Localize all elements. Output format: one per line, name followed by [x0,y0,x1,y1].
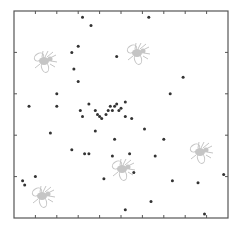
data-point [222,173,225,176]
data-point [105,113,108,116]
data-point [81,16,84,19]
data-point [132,171,135,174]
data-point [111,154,114,157]
data-point [154,154,157,157]
data-point [21,179,24,182]
data-point [70,51,73,54]
data-point [94,130,97,133]
data-point [111,109,114,112]
plot-border [14,11,228,218]
bee-icon [111,159,135,181]
data-point [120,107,123,110]
data-point [79,109,82,112]
data-point [34,175,37,178]
data-point [102,177,105,180]
plot-frame [14,11,228,218]
bee-decorations [31,43,213,208]
data-point [55,92,58,95]
scatter-plot [0,0,241,235]
data-point [130,117,133,120]
data-point [150,200,153,203]
data-point [203,212,206,215]
data-point [87,152,90,155]
data-point [83,152,86,155]
data-point [87,103,90,106]
data-point [77,80,80,83]
data-point [147,16,150,19]
data-point [124,101,127,104]
data-point [70,148,73,151]
data-point [171,179,174,182]
data-point [162,138,165,141]
data-point [100,117,103,120]
data-point [77,45,80,48]
data-point [109,105,112,108]
bee-icon [33,51,57,73]
data-point [81,115,84,118]
data-point [113,138,116,141]
data-point [124,208,127,211]
bee-icon [126,43,150,65]
data-point [115,103,118,106]
data-point [55,105,58,108]
data-point [115,55,118,58]
axis-ticks [14,11,228,218]
data-point [49,132,52,135]
data-point [169,92,172,95]
bee-icon [189,142,213,164]
data-point [72,68,75,71]
data-point [124,115,127,118]
data-point [94,109,97,112]
data-point [23,183,26,186]
data-point [128,152,131,155]
data-point [143,128,146,131]
data-point [197,181,200,184]
data-point [182,76,185,79]
data-point [107,109,110,112]
data-points [21,16,225,216]
data-point [28,105,31,108]
data-point [90,24,93,27]
bee-icon [31,186,55,208]
